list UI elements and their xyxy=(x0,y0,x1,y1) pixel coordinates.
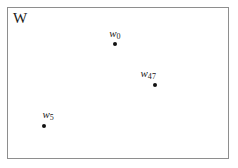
point-label-w5: w5 xyxy=(42,109,54,123)
point-label-subscript: 5 xyxy=(50,113,54,122)
point-label-subscript: 47 xyxy=(148,72,156,81)
point-marker-w5 xyxy=(42,124,46,128)
point-label-subscript: 0 xyxy=(117,32,121,41)
point-marker-w47 xyxy=(153,83,157,87)
set-name-label: W xyxy=(13,11,27,26)
point-label-w47: w47 xyxy=(140,68,156,82)
point-label-w0: w0 xyxy=(109,28,121,42)
point-marker-w0 xyxy=(113,42,117,46)
set-diagram-figure: W w0w47w5 xyxy=(0,0,238,168)
